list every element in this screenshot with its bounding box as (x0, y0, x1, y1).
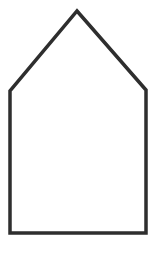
pentagon-outline (10, 11, 146, 233)
diagram-canvas (0, 0, 152, 255)
house-outline-shape (0, 0, 152, 255)
